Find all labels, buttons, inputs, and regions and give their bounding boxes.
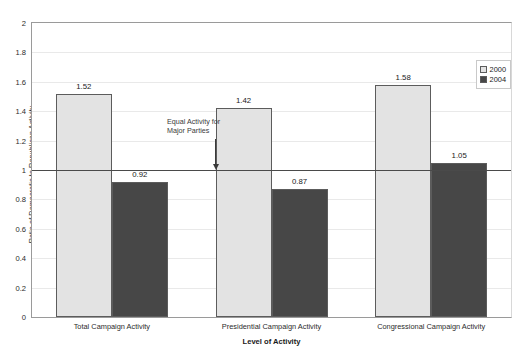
y-axis-tick-label: 1 xyxy=(22,166,26,175)
legend-swatch-icon-2004 xyxy=(480,76,487,83)
y-axis-tick-label: 0.8 xyxy=(15,195,26,204)
bar-2004-group-2[interactable] xyxy=(272,189,328,317)
bar-value-label: 1.58 xyxy=(396,73,411,82)
y-axis-tick-label: 1.2 xyxy=(15,136,26,145)
reference-line-annotation: Equal Activity forMajor Parties xyxy=(167,117,267,170)
plot-area: 1.520.921.420.871.581.05Equal Activity f… xyxy=(31,22,512,318)
x-axis-category-labels: Total Campaign ActivityPresidential Camp… xyxy=(31,322,512,336)
bar-value-label: 0.87 xyxy=(292,177,307,186)
legend-item-2004[interactable]: 2004 xyxy=(480,75,506,84)
bar-value-label: 1.05 xyxy=(452,151,467,160)
legend-swatch-icon-2000 xyxy=(480,66,487,73)
legend-label-2004: 2004 xyxy=(490,75,506,84)
y-axis-tick-label: 2 xyxy=(22,19,26,28)
legend-label-2000: 2000 xyxy=(490,65,506,74)
annotation-arrow-icon xyxy=(215,139,216,165)
y-axis-tick-label: 0 xyxy=(22,313,26,322)
x-axis-title: Level of Activity xyxy=(31,337,512,346)
annotation-text-line-2: Major Parties xyxy=(167,126,220,135)
legend: 2000 2004 xyxy=(476,60,511,89)
bar-value-label: 1.52 xyxy=(76,82,91,91)
bar-2000-group-1[interactable] xyxy=(56,94,112,317)
bar-value-label: 1.42 xyxy=(236,96,251,105)
x-axis-category-label: Congressional Campaign Activity xyxy=(377,322,485,331)
annotation-text: Equal Activity forMajor Parties xyxy=(167,117,220,135)
y-axis-tick-label: 0.4 xyxy=(15,254,26,263)
plot-inner: 1.520.921.420.871.581.05Equal Activity f… xyxy=(32,23,511,317)
bar-chart: Ratio of Democratic to Republican Activi… xyxy=(0,0,517,357)
y-axis-tick-labels: 00.20.40.60.811.21.41.61.82 xyxy=(0,22,30,318)
legend-item-2000[interactable]: 2000 xyxy=(480,65,506,74)
reference-line xyxy=(32,170,511,171)
bar-value-label: 0.92 xyxy=(132,170,147,179)
x-axis-category-label: Presidential Campaign Activity xyxy=(222,322,321,331)
annotation-text-line-1: Equal Activity for xyxy=(167,117,220,126)
y-axis-tick-label: 1.6 xyxy=(15,77,26,86)
gridline xyxy=(32,82,511,83)
y-axis-tick-label: 0.6 xyxy=(15,224,26,233)
x-axis-category-label: Total Campaign Activity xyxy=(74,322,150,331)
bar-2000-group-3[interactable] xyxy=(375,85,431,317)
y-axis-tick-label: 0.2 xyxy=(15,283,26,292)
y-axis-tick-label: 1.4 xyxy=(15,107,26,116)
y-axis-tick-label: 1.8 xyxy=(15,48,26,57)
gridline xyxy=(32,52,511,53)
bar-2004-group-1[interactable] xyxy=(112,182,168,317)
bar-2004-group-3[interactable] xyxy=(431,163,487,317)
